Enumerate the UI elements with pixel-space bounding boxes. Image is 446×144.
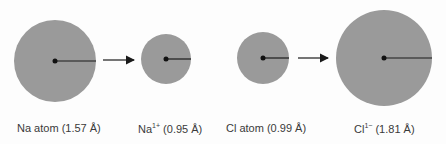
nucleus-dot: [164, 57, 169, 62]
nucleus-dot: [53, 59, 58, 64]
cl-ion-value: (1.81 Å): [375, 123, 414, 135]
na-ion-symbol: Na: [138, 123, 152, 135]
na-ion-charge: 1+: [152, 122, 160, 129]
na-atom-circle: [14, 20, 96, 102]
na-ion-circle: [141, 34, 191, 84]
cl-ion-label: Cl1− (1.81 Å): [354, 122, 415, 135]
cl-atom-label: Cl atom (0.99 Å): [226, 122, 306, 134]
nucleus-dot: [382, 56, 387, 61]
na-atom-label: Na atom (1.57 Å): [17, 122, 101, 134]
cl-ion-charge: 1−: [364, 122, 372, 129]
na-ion-value: (0.95 Å): [163, 123, 202, 135]
na-ion-label: Na1+ (0.95 Å): [138, 122, 202, 135]
cl-ion-circle: [336, 10, 432, 106]
nucleus-dot: [261, 56, 266, 61]
cl-atom-circle: [237, 32, 289, 84]
cl-ion-symbol: Cl: [354, 123, 364, 135]
